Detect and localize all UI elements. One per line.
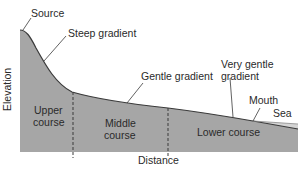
label-middle-course-2: course: [104, 129, 136, 141]
label-upper-course-2: course: [33, 116, 65, 128]
label-lower-course: Lower course: [197, 126, 260, 138]
axis-label-elevation: Elevation: [1, 68, 13, 111]
leader-steep: [44, 36, 66, 61]
label-mouth: Mouth: [249, 94, 278, 106]
leader-gentle: [127, 83, 143, 103]
leader-source: [23, 18, 31, 30]
leader-mouth: [253, 108, 260, 121]
river-profile-diagram: Source Steep gradient Gentle gradient Ve…: [0, 0, 304, 174]
label-source: Source: [31, 7, 64, 19]
label-very-gentle-line2: gradient: [221, 70, 259, 82]
leader-very-gentle: [230, 78, 233, 117]
label-gentle-gradient: Gentle gradient: [141, 70, 213, 82]
label-very-gentle-line1: Very gentle: [221, 58, 274, 70]
label-middle-course-1: Middle: [105, 117, 136, 129]
axis-label-distance: Distance: [138, 154, 179, 166]
label-steep-gradient: Steep gradient: [68, 27, 136, 39]
label-upper-course-1: Upper: [34, 104, 63, 116]
label-sea: Sea: [273, 107, 292, 119]
